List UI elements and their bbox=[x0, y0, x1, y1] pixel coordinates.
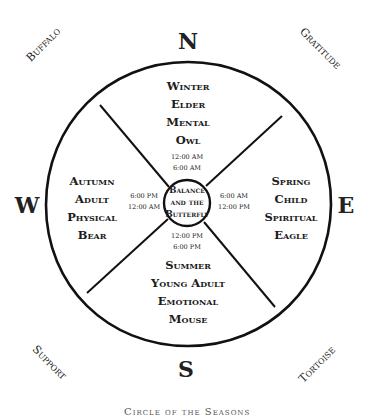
time-east-end: 12:00 PM bbox=[214, 202, 254, 213]
time-north-start: 12:00 AM bbox=[166, 152, 208, 163]
time-west-start: 6:00 PM bbox=[124, 191, 164, 202]
aspect-emotional: Emotional bbox=[138, 292, 238, 310]
stage-child: Child bbox=[256, 190, 326, 208]
stage-adult: Adult bbox=[56, 190, 128, 208]
animal-owl: Owl bbox=[148, 131, 228, 149]
time-north: 12:00 AM 6:00 AM bbox=[166, 152, 208, 174]
center-line-2: and the bbox=[161, 196, 213, 208]
east-label: E bbox=[336, 192, 356, 218]
aspect-mental: Mental bbox=[148, 113, 228, 131]
animal-eagle: Eagle bbox=[256, 226, 326, 244]
time-north-end: 6:00 AM bbox=[166, 163, 208, 174]
time-south-end: 6:00 PM bbox=[166, 242, 208, 253]
aspect-spiritual: Spiritual bbox=[256, 208, 326, 226]
time-south: 12:00 PM 6:00 PM bbox=[166, 231, 208, 253]
animal-bear: Bear bbox=[56, 226, 128, 244]
west-label: W bbox=[14, 192, 40, 218]
aspect-physical: Physical bbox=[56, 208, 128, 226]
south-label: S bbox=[176, 356, 196, 382]
quadrant-east: Spring Child Spiritual Eagle bbox=[256, 172, 326, 244]
animal-mouse: Mouse bbox=[138, 310, 238, 328]
stage-young-adult: Young Adult bbox=[138, 274, 238, 292]
time-south-start: 12:00 PM bbox=[166, 231, 208, 242]
time-east-start: 6:00 AM bbox=[214, 191, 254, 202]
center-balance: Balance and the Butterfly bbox=[161, 184, 213, 220]
diagram-caption: Circle of the Seasons bbox=[124, 406, 244, 417]
north-label: N bbox=[176, 28, 200, 54]
time-west: 6:00 PM 12:00 AM bbox=[124, 191, 164, 213]
quadrant-west: Autumn Adult Physical Bear bbox=[56, 172, 128, 244]
season-autumn: Autumn bbox=[56, 172, 128, 190]
center-line-3: Butterfly bbox=[161, 208, 213, 220]
center-line-1: Balance bbox=[161, 184, 213, 196]
quadrant-south: Summer Young Adult Emotional Mouse bbox=[138, 256, 238, 328]
season-spring: Spring bbox=[256, 172, 326, 190]
time-east: 6:00 AM 12:00 PM bbox=[214, 191, 254, 213]
time-west-end: 12:00 AM bbox=[124, 202, 164, 213]
stage-elder: Elder bbox=[148, 95, 228, 113]
season-winter: Winter bbox=[148, 77, 228, 95]
season-summer: Summer bbox=[138, 256, 238, 274]
quadrant-north: Winter Elder Mental Owl bbox=[148, 77, 228, 149]
